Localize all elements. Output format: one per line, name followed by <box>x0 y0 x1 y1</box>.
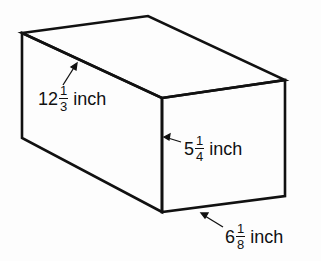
length-numerator: 1 <box>59 84 68 99</box>
length-whole: 12 <box>38 90 58 108</box>
width-arrow <box>205 216 223 227</box>
length-label: 12 1 3 inch <box>38 84 106 113</box>
height-denominator: 4 <box>196 149 203 163</box>
height-label: 5 1 4 inch <box>184 134 242 163</box>
width-fraction: 1 8 <box>236 222 245 251</box>
height-whole: 5 <box>184 140 194 158</box>
width-unit: inch <box>250 228 283 246</box>
height-arrowhead-icon <box>164 134 170 140</box>
width-whole: 6 <box>225 228 235 246</box>
length-arrowhead-icon <box>71 63 77 70</box>
height-unit: inch <box>209 140 242 158</box>
length-unit: inch <box>73 90 106 108</box>
length-denominator: 3 <box>60 99 67 113</box>
height-fraction: 1 4 <box>195 134 204 163</box>
height-arrow <box>168 138 181 142</box>
width-numerator: 1 <box>236 222 245 237</box>
width-label: 6 1 8 inch <box>225 222 283 251</box>
width-denominator: 8 <box>237 237 244 251</box>
side-face <box>22 33 162 212</box>
height-numerator: 1 <box>195 134 204 149</box>
length-fraction: 1 3 <box>59 84 68 113</box>
